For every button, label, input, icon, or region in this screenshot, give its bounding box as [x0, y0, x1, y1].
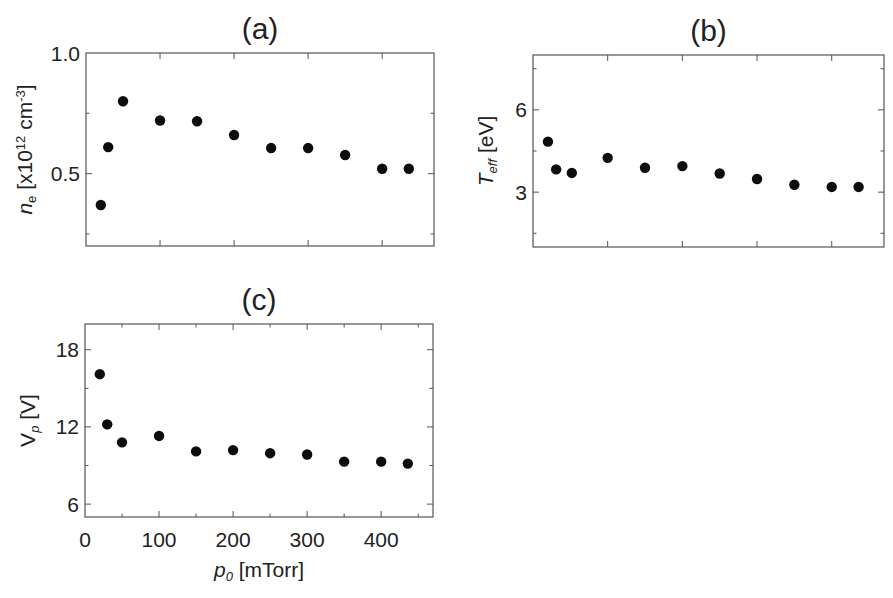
panel-title: (a): [242, 12, 279, 45]
x-ticks: [122, 324, 418, 517]
data-point: [102, 419, 112, 429]
panel-title: (c): [242, 283, 277, 316]
data-series: [95, 369, 413, 469]
data-point: [404, 164, 414, 174]
y-ticks: [85, 350, 433, 504]
y-axis-label: ne [x1012 cm-3]: [13, 84, 39, 214]
data-point: [340, 150, 350, 160]
x-ticks: [608, 55, 832, 247]
data-point: [155, 115, 165, 125]
y-tick-label: 1.0: [51, 42, 80, 65]
x-tick-label: 300: [290, 528, 325, 551]
data-point: [266, 143, 276, 153]
figure: 0.51.0(a)ne [x1012 cm-3] 36(b)Teff [eV] …: [0, 0, 893, 598]
data-series: [96, 96, 414, 210]
figure-canvas: 0.51.0(a)ne [x1012 cm-3] 36(b)Teff [eV] …: [0, 0, 893, 598]
x-axis-label: p0 [mTorr]: [213, 558, 304, 584]
y-tick-label: 12: [56, 415, 79, 438]
data-point: [265, 448, 275, 458]
x-tick-label: 200: [216, 528, 251, 551]
x-tick-label: 100: [142, 528, 177, 551]
plot-frame: [85, 324, 433, 517]
y-tick-label: 0.5: [51, 162, 80, 185]
data-point: [118, 96, 128, 106]
data-point: [602, 153, 612, 163]
plot-frame: [86, 53, 434, 246]
data-point: [229, 130, 239, 140]
y-tick-labels: 0.51.0: [51, 42, 80, 186]
data-point: [789, 180, 799, 190]
data-point: [96, 200, 106, 210]
data-point: [376, 456, 386, 466]
panel-a-ne: 0.51.0(a)ne [x1012 cm-3]: [13, 12, 434, 246]
data-point: [640, 163, 650, 173]
y-axis-label: Teff [eV]: [474, 116, 500, 187]
y-axis-label: Vp [V]: [16, 394, 42, 447]
data-point: [377, 164, 387, 174]
data-point: [228, 445, 238, 455]
data-point: [567, 168, 577, 178]
y-tick-label: 18: [56, 338, 79, 361]
data-point: [752, 174, 762, 184]
data-point: [551, 164, 561, 174]
y-tick-label: 6: [67, 493, 79, 516]
y-tick-label: 3: [515, 181, 527, 204]
x-tick-labels: 0100200300400: [79, 528, 399, 551]
y-tick-labels: 61218: [56, 338, 79, 515]
y-ticks: [533, 69, 884, 234]
data-point: [192, 116, 202, 126]
data-point: [403, 458, 413, 468]
data-series: [543, 136, 864, 192]
data-point: [191, 446, 201, 456]
data-point: [117, 437, 127, 447]
panel-title: (b): [690, 14, 727, 47]
panel-b-teff: 36(b)Teff [eV]: [474, 14, 884, 247]
data-point: [853, 182, 863, 192]
data-point: [303, 143, 313, 153]
plot-frame: [533, 55, 884, 247]
data-point: [95, 369, 105, 379]
y-tick-labels: 36: [515, 98, 527, 203]
data-point: [715, 168, 725, 178]
data-point: [154, 431, 164, 441]
data-point: [543, 136, 553, 146]
x-tick-label: 400: [364, 528, 399, 551]
panel-c-vp: 612180100200300400(c)Vp [V]p0 [mTorr]: [16, 283, 433, 584]
x-tick-label: 0: [79, 528, 91, 551]
data-point: [827, 182, 837, 192]
data-point: [339, 456, 349, 466]
data-point: [677, 161, 687, 171]
y-tick-label: 6: [515, 98, 527, 121]
data-point: [302, 449, 312, 459]
data-point: [103, 142, 113, 152]
